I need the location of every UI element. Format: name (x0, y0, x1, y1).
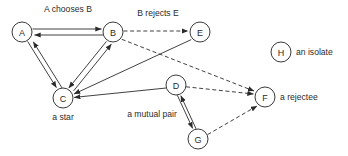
node-d-label: D (173, 81, 180, 91)
edge-label-a-mutual-pair: a mutual pair (127, 109, 177, 119)
edge-label-a-chooses-b: A chooses B (44, 4, 92, 14)
edge-g-f[interactable] (208, 106, 257, 135)
node-e-label: E (197, 28, 203, 38)
edge-d-g[interactable] (177, 95, 196, 129)
edge-d-c[interactable] (74, 88, 166, 97)
sociogram-canvas: E dashed (rejection) --> F dashed (rejec… (0, 0, 348, 156)
node-e[interactable]: E (190, 22, 210, 42)
edge-a-b[interactable] (33, 29, 104, 35)
edge-b-c-forward (69, 41, 107, 88)
edge-d-g-backward (181, 96, 196, 129)
annotation-an-isolate: an isolate (296, 47, 333, 57)
node-b-label: B (110, 28, 116, 38)
node-c[interactable]: C (53, 88, 73, 108)
edge-label-b-rejects-e: B rejects E (137, 8, 179, 18)
edge-a-c-forward (28, 41, 57, 87)
node-c-label: C (60, 94, 67, 104)
edge-a-c[interactable] (28, 41, 63, 88)
node-d[interactable]: D (166, 75, 186, 95)
edge-a-c-backward (33, 42, 62, 88)
node-g[interactable]: G (188, 129, 208, 149)
node-a-label: A (19, 28, 25, 38)
annotation-a-star: a star (52, 112, 74, 122)
node-f-label: F (262, 93, 268, 103)
edge-b-c-backward (74, 44, 112, 91)
edge-b-c[interactable] (69, 41, 112, 91)
annotation-a-rejectee: a rejectee (280, 92, 318, 102)
node-a[interactable]: A (12, 22, 32, 42)
node-h-label: H (278, 48, 285, 58)
node-h[interactable]: H (271, 42, 291, 62)
edge-d-f[interactable] (186, 87, 254, 94)
node-g-label: G (194, 135, 201, 145)
node-f[interactable]: F (255, 87, 275, 107)
edge-b-f[interactable] (122, 39, 254, 91)
node-b[interactable]: B (103, 22, 123, 42)
sociogram-diagram: E dashed (rejection) --> F dashed (rejec… (0, 0, 348, 156)
edge-d-g-forward (177, 95, 192, 128)
nodes-layer: A B E C D G (12, 22, 291, 149)
